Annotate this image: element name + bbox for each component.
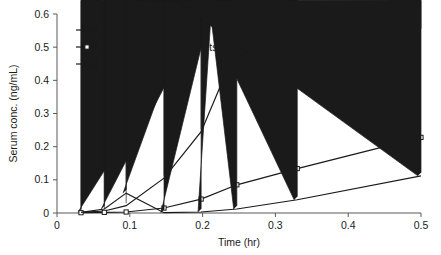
y-axis-title: Serum conc. (ng/mL) [7, 64, 19, 162]
x-tick-label: 0 [54, 219, 60, 231]
data-point-2-7 [176, 0, 421, 176]
legend-label-main-0: OraVescent [106, 24, 161, 36]
y-tick-label: 0.6 [34, 8, 49, 20]
x-tick-label: 0.2 [195, 219, 210, 231]
y-tick-label: 0.4 [34, 74, 49, 86]
data-point-1-1 [102, 210, 106, 214]
x-tick-label: 0.5 [414, 219, 429, 231]
legend-label-1: Non-OraVescent tablets [106, 41, 217, 53]
legend-label-tail-0: tablets [166, 24, 200, 36]
x-axis-title: Time (hr) [218, 236, 260, 248]
legend-label-0: OraVescent® tablets [106, 24, 200, 36]
y-tick-label: 0.3 [34, 107, 49, 119]
y-tick-label: 0 [43, 207, 49, 219]
legend-label-tail-2: lozenges [143, 58, 188, 70]
line-chart: 00.10.20.30.40.50.600.10.20.30.40.5 OraV… [0, 0, 441, 255]
x-tick-label: 0.1 [122, 219, 137, 231]
y-tick-label: 0.2 [34, 140, 49, 152]
x-tick-label: 0.3 [268, 219, 283, 231]
legend-label-2: ACTIQ® lozenges [106, 58, 188, 70]
legend-marker-1 [85, 45, 89, 49]
x-tick-label: 0.4 [341, 219, 356, 231]
y-tick-label: 0.1 [34, 173, 49, 185]
data-point-1-2 [124, 210, 128, 214]
legend-label-main-2: ACTIQ [106, 58, 138, 70]
chart-figure: 00.10.20.30.40.50.600.10.20.30.40.5 OraV… [0, 0, 441, 255]
legend-label-main-1: Non-OraVescent tablets [106, 41, 217, 53]
y-tick-label: 0.5 [34, 41, 49, 53]
